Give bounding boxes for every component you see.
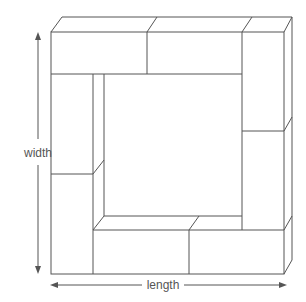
bottom-row-split-depth (189, 216, 199, 230)
inner-opening-corner-depth (93, 216, 104, 230)
right-face (284, 17, 292, 274)
right-column-split-depth (284, 117, 292, 131)
bottom-row-top-depth (284, 216, 292, 230)
left-column-split-depth (93, 160, 104, 174)
frame-diagram: width length (0, 0, 306, 302)
length-label: length (147, 278, 180, 292)
width-label: width (23, 146, 52, 160)
outer-front-face (51, 32, 284, 274)
top-right-block-top-divider (242, 17, 252, 32)
top-face (51, 17, 292, 32)
top-left-block-top-divider (147, 17, 157, 32)
